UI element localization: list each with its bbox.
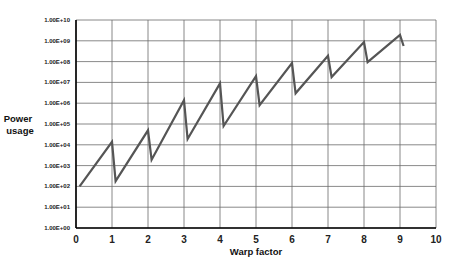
y-tick-label: 1.00E+01 bbox=[44, 204, 71, 210]
x-tick-label: 3 bbox=[181, 234, 187, 245]
data-series bbox=[80, 35, 404, 186]
y-tick-label: 1.00E+09 bbox=[44, 38, 71, 44]
y-tick-label: 1.00E+05 bbox=[44, 121, 71, 127]
y-tick-label: 1.00E+03 bbox=[44, 163, 71, 169]
x-axis-tick-labels: 012345678910 bbox=[73, 234, 442, 245]
x-tick-label: 10 bbox=[430, 234, 442, 245]
y-tick-label: 1.00E+04 bbox=[44, 142, 71, 148]
x-tick-label: 0 bbox=[73, 234, 79, 245]
x-tick-label: 8 bbox=[361, 234, 367, 245]
power-usage-chart: 1.00E+001.00E+011.00E+021.00E+031.00E+04… bbox=[0, 0, 455, 271]
x-tick-label: 6 bbox=[289, 234, 295, 245]
power-usage-line bbox=[80, 35, 404, 186]
x-tick-label: 2 bbox=[145, 234, 151, 245]
x-axis-title: Warp factor bbox=[230, 246, 283, 257]
y-tick-label: 1.00E+07 bbox=[44, 79, 71, 85]
y-tick-label: 1.00E+00 bbox=[44, 225, 71, 231]
y-tick-label: 1.00E+06 bbox=[44, 100, 71, 106]
y-axis-title-line1: Power bbox=[4, 113, 33, 124]
y-tick-label: 1.00E+08 bbox=[44, 59, 71, 65]
x-tick-label: 5 bbox=[253, 234, 259, 245]
x-tick-label: 9 bbox=[397, 234, 403, 245]
y-axis-title-line2: usage bbox=[6, 125, 33, 136]
x-tick-label: 7 bbox=[325, 234, 331, 245]
x-tick-label: 4 bbox=[217, 234, 223, 245]
y-tick-label: 1.00E+02 bbox=[44, 183, 71, 189]
y-tick-label: 1.00E+10 bbox=[44, 17, 71, 23]
x-tick-label: 1 bbox=[109, 234, 115, 245]
y-axis-tick-labels: 1.00E+001.00E+011.00E+021.00E+031.00E+04… bbox=[44, 17, 71, 231]
